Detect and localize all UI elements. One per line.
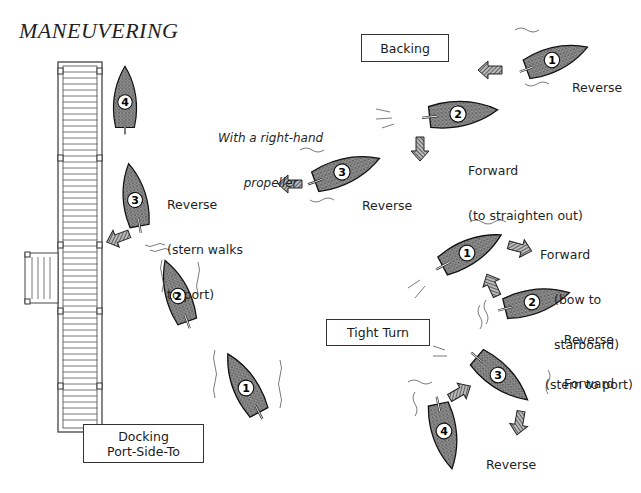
docking-section-box: Docking Port-Side-To (83, 424, 204, 463)
turn-step-2-label: Reverse (stern to port) (545, 302, 633, 407)
tight-turn-section-label: Tight Turn (347, 325, 409, 340)
backing-arrow-1 (478, 61, 502, 79)
page-title: MANEUVERING (19, 18, 178, 44)
backing-boat-2 (421, 97, 499, 131)
docking-step-3-label: Reverse (stern walks to port) (167, 167, 243, 317)
turn-boat-4 (425, 394, 465, 471)
docking-boat-4 (113, 66, 136, 134)
docking-step-3-detail-2: to port) (167, 287, 243, 302)
backing-step-3-label: Reverse (362, 198, 412, 213)
turn-step-4-label: Reverse (486, 457, 536, 472)
tight-turn-section-box: Tight Turn (326, 319, 430, 346)
turn-arrow-2 (479, 270, 505, 299)
dock (25, 62, 102, 432)
backing-arrow-2 (411, 137, 429, 161)
docking-step-3-detail-1: (stern walks (167, 242, 243, 257)
docking-boat-1 (217, 348, 274, 425)
turn-arrow-1 (506, 236, 534, 260)
backing-section-label: Backing (380, 41, 430, 56)
docking-section-label-1: Docking (118, 429, 169, 444)
backing-boat-1 (516, 36, 592, 84)
turn-step-2-action: Reverse (545, 332, 633, 347)
backing-section-box: Backing (361, 34, 449, 62)
docking-step-3-action: Reverse (167, 197, 243, 212)
propeller-note-line1: With a right-hand (218, 131, 323, 146)
turn-boat-3 (463, 343, 535, 409)
backing-step-2-action: Forward (468, 163, 583, 178)
turn-arrow-3 (445, 378, 475, 406)
turn-arrow-4 (508, 410, 530, 437)
turn-step-1-action: Forward (540, 247, 619, 262)
backing-step-1-label: Reverse (572, 80, 622, 95)
docking-arrow (104, 225, 133, 250)
docking-boat-3 (117, 162, 153, 235)
docking-section-label-2: Port-Side-To (107, 444, 180, 459)
turn-step-3-label: Forward (564, 376, 614, 391)
